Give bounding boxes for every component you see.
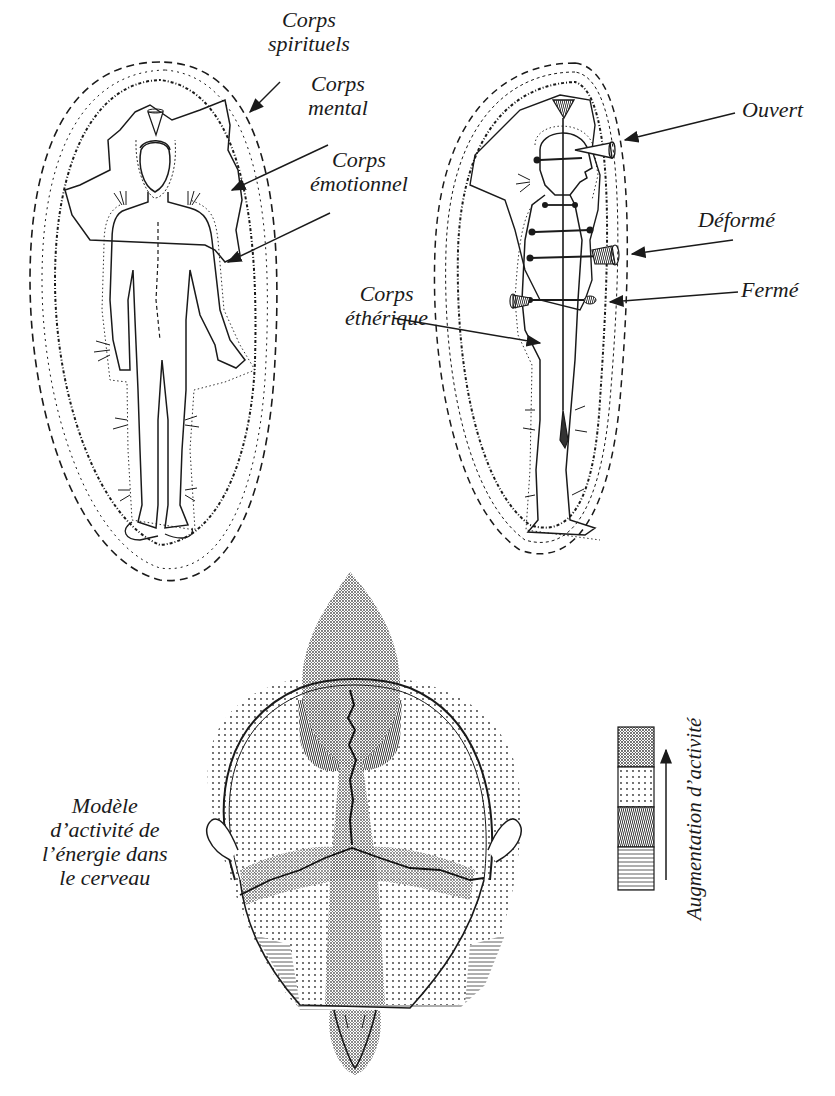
side-spiritual-outline (434, 63, 627, 554)
legend-patch-medium (618, 807, 654, 847)
label-line: mental (308, 96, 368, 120)
brain-activity-diagram (207, 572, 521, 1075)
label-line: spirituels (268, 32, 350, 56)
illustration-page: Corps spirituels Corps mental Corps émot… (0, 0, 835, 1096)
label-mental-body: Corps mental (308, 72, 368, 120)
label-line: Fermé (741, 278, 798, 302)
line-art-canvas (0, 0, 835, 1096)
caption-line: Modèle (42, 794, 168, 818)
label-closed: Fermé (741, 278, 798, 302)
arrow-closed (610, 292, 738, 302)
side-head (540, 133, 592, 195)
label-emotional-body: Corps émotionnel (310, 148, 408, 196)
front-view-figure (30, 62, 277, 581)
arrow-open (625, 113, 735, 140)
legend-patch-lowest (618, 847, 654, 890)
label-line: Ouvert (742, 98, 803, 122)
label-line: Déformé (698, 208, 775, 232)
label-open: Ouvert (742, 98, 803, 122)
legend-title: Augmentation d’activité (682, 718, 707, 920)
label-line: Corps (268, 8, 350, 32)
legend-patch-highest (618, 727, 654, 767)
deformed-chakra (592, 245, 619, 265)
label-line: éthérique (345, 306, 428, 330)
side-view-arrows (393, 113, 738, 343)
brain-caption: Modèle d’activité de l’énergie dans le c… (42, 794, 168, 890)
legend-patch-high (618, 767, 654, 807)
caption-line: le cerveau (42, 866, 168, 890)
label-line: Corps (310, 148, 408, 172)
label-deformed: Déformé (698, 208, 775, 232)
side-body (522, 195, 595, 535)
label-line: Corps (308, 72, 368, 96)
side-view-figure (434, 63, 627, 554)
label-line: Corps (345, 282, 428, 306)
activity-legend (618, 727, 666, 890)
caption-line: l’énergie dans (42, 842, 168, 866)
label-etheric-body: Corps éthérique (345, 282, 428, 330)
label-spiritual-bodies: Corps spirituels (268, 8, 350, 56)
arrow-emotional (228, 213, 330, 262)
label-line: émotionnel (310, 172, 408, 196)
caption-line: d’activité de (42, 818, 168, 842)
arrow-deformed (632, 240, 733, 254)
arrow-spiritual (250, 82, 280, 112)
